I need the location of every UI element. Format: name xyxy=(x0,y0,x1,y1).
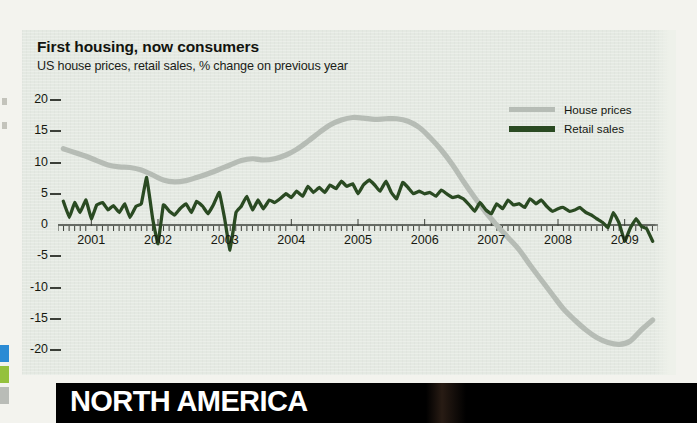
x-axis-label: 2008 xyxy=(537,233,579,247)
y-axis-tick xyxy=(50,193,61,195)
y-axis-label: 15 xyxy=(22,123,48,137)
x-axis-label: 2002 xyxy=(137,233,179,247)
x-axis-label: 2005 xyxy=(337,233,379,247)
chart-panel: First housing, now consumers US house pr… xyxy=(22,30,676,375)
section-banner-title: NORTH AMERICA xyxy=(70,385,308,418)
edge-tab-green[interactable] xyxy=(0,366,9,383)
y-axis-label: -10 xyxy=(22,280,48,294)
y-axis-tick xyxy=(50,162,61,164)
panel-right-fade xyxy=(654,30,676,375)
y-axis-label: -15 xyxy=(22,311,48,325)
chart-svg xyxy=(58,100,658,350)
chart-title: First housing, now consumers xyxy=(37,38,259,56)
x-axis-label: 2006 xyxy=(404,233,446,247)
y-axis-label: 5 xyxy=(22,186,48,200)
edge-tab-blue[interactable] xyxy=(0,345,9,362)
y-axis-label: 20 xyxy=(22,92,48,106)
x-axis-label: 2009 xyxy=(604,233,646,247)
y-axis-tick xyxy=(50,99,61,101)
y-axis-label: -20 xyxy=(22,342,48,356)
y-axis-label: 10 xyxy=(22,155,48,169)
banner-smudge xyxy=(426,383,466,423)
x-axis-label: 2004 xyxy=(270,233,312,247)
y-axis-tick xyxy=(50,287,61,289)
y-axis-tick xyxy=(50,349,61,351)
chart-subtitle: US house prices, retail sales, % change … xyxy=(37,59,348,73)
x-axis-label: 2001 xyxy=(70,233,112,247)
edge-tab-grey[interactable] xyxy=(0,387,9,404)
section-banner: NORTH AMERICA xyxy=(56,383,697,423)
edge-mark-upper xyxy=(2,98,7,105)
x-axis-label: 2007 xyxy=(470,233,512,247)
y-axis-label: 0 xyxy=(22,217,48,231)
series-line-house-prices xyxy=(63,117,652,344)
y-axis-label: -5 xyxy=(22,248,48,262)
x-axis-label: 2003 xyxy=(204,233,246,247)
y-axis-tick xyxy=(50,130,61,132)
y-axis-tick xyxy=(50,318,61,320)
edge-mark-lower xyxy=(2,122,7,129)
y-axis-tick xyxy=(50,255,61,257)
plot-area xyxy=(58,100,658,350)
